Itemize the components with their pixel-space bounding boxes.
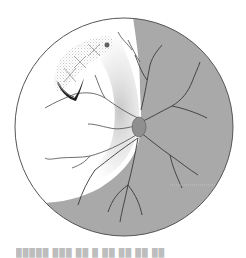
optic-disc (132, 117, 146, 137)
figure-caption: █████ ███ ██ █ ██ ██ ██ ██ (16, 248, 236, 258)
pigment-dot (105, 43, 109, 47)
